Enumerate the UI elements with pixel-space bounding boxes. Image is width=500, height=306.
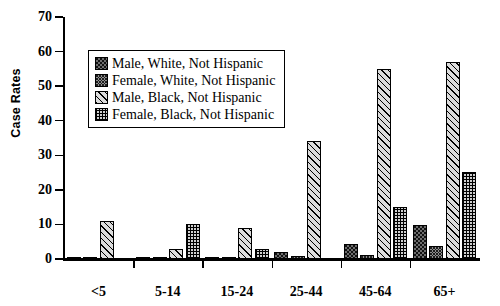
bar: [360, 255, 374, 259]
bar: [186, 224, 200, 259]
legend-swatch-icon: [95, 108, 108, 121]
legend-item: Female, Black, Not Hispanic: [95, 106, 275, 123]
x-tick-label: 25-44: [290, 284, 323, 300]
legend-label: Female, White, Not Hispanic: [112, 74, 275, 88]
y-tick: [55, 16, 63, 18]
y-tick-label: 10: [18, 217, 52, 231]
y-tick-label: 40: [18, 114, 52, 128]
y-tick: [55, 224, 63, 226]
legend-item: Male, Black, Not Hispanic: [95, 89, 275, 106]
legend-swatch-icon: [95, 74, 108, 87]
y-tick: [55, 51, 63, 53]
y-tick: [55, 258, 63, 260]
bar: [67, 257, 81, 259]
bar-chart: Case Rates 010203040506070 <55-1415-2425…: [0, 0, 500, 306]
y-tick-label: 60: [18, 45, 52, 59]
chart-legend: Male, White, Not HispanicFemale, White, …: [88, 50, 285, 128]
bar: [205, 257, 219, 259]
y-tick: [55, 155, 63, 157]
x-tick-label: 65+: [433, 284, 455, 300]
bar: [100, 221, 114, 259]
x-tick: [341, 260, 343, 268]
bar: [136, 257, 150, 259]
bar: [153, 257, 167, 259]
x-tick-label: 45-64: [359, 284, 392, 300]
y-tick-label: 70: [18, 10, 52, 24]
bar: [413, 225, 427, 259]
x-tick: [272, 260, 274, 268]
bar: [344, 244, 358, 259]
bar: [274, 252, 288, 259]
legend-item: Female, White, Not Hispanic: [95, 72, 275, 89]
y-axis-line: [63, 17, 65, 260]
x-tick-label: 5-14: [155, 284, 181, 300]
bar: [307, 141, 321, 259]
bar: [238, 228, 252, 259]
x-tick: [202, 260, 204, 268]
x-tick-label: <5: [91, 284, 106, 300]
y-tick-label: 0: [18, 252, 52, 266]
legend-label: Male, Black, Not Hispanic: [112, 91, 262, 105]
bar: [393, 207, 407, 259]
bar: [83, 257, 97, 259]
legend-swatch-icon: [95, 91, 108, 104]
bar: [169, 249, 183, 259]
y-tick: [55, 85, 63, 87]
x-tick-label: 15-24: [221, 284, 254, 300]
legend-item: Male, White, Not Hispanic: [95, 55, 275, 72]
y-tick: [55, 120, 63, 122]
bar: [222, 257, 236, 259]
x-tick: [133, 260, 135, 268]
bar: [429, 246, 443, 259]
legend-swatch-icon: [95, 57, 108, 70]
bar: [255, 249, 269, 259]
x-tick: [410, 260, 412, 268]
bar: [446, 62, 460, 259]
y-axis-title: Case Rates: [9, 43, 23, 163]
y-tick-label: 20: [18, 183, 52, 197]
bar: [462, 172, 476, 259]
bar: [377, 69, 391, 259]
y-tick-label: 50: [18, 79, 52, 93]
bar: [291, 256, 305, 259]
legend-label: Male, White, Not Hispanic: [112, 57, 263, 71]
legend-label: Female, Black, Not Hispanic: [112, 108, 274, 122]
y-tick-label: 30: [18, 148, 52, 162]
y-tick: [55, 189, 63, 191]
